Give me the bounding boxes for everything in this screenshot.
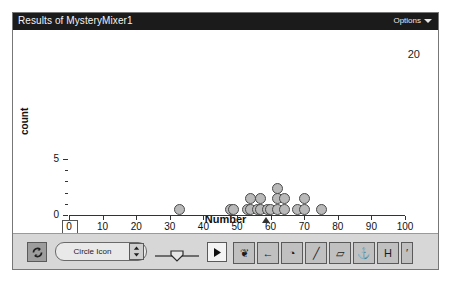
x-tick [371,216,372,220]
more-tools-icon: ′ [406,248,408,259]
stamp-tool-icon: ◔ [289,248,296,259]
y-minor-tick [65,204,68,205]
x-tick [136,216,137,220]
window-title-bar: Results of MysteryMixer1 Options [13,13,438,30]
options-button[interactable]: Options [393,16,421,25]
x-tick-label: 10 [90,221,116,232]
x-tick [103,216,104,220]
refresh-icon[interactable] [27,242,47,262]
eraser-tool[interactable]: ▱ [329,242,351,264]
window-title: Results of MysteryMixer1 [18,15,133,26]
point-count-badge: 20 [408,48,420,60]
x-tick [405,216,406,220]
y-minor-tick [65,181,68,182]
icon-select-dropdown[interactable]: Circle Icon [55,242,147,261]
hand-tool[interactable]: ❦ [233,242,255,264]
mean-marker-icon[interactable] [262,217,270,223]
x-tick [338,216,339,220]
arrow-cursor-icon[interactable] [207,242,227,262]
x-tick [271,216,272,220]
chevron-down-icon[interactable] [424,19,432,23]
x-tick [203,216,204,220]
x-tick-label: 40 [190,221,216,232]
x-tick [170,216,171,220]
size-slider[interactable] [155,248,199,255]
data-point-dot[interactable] [272,183,283,194]
stamp-tool[interactable]: ◔ [281,242,303,264]
hand-tool-icon: ❦ [240,248,249,259]
y-minor-tick [65,193,68,194]
x-tick-label: 30 [157,221,183,232]
tool-button-group: ❦←◔╱▱⚓H′ [233,242,413,264]
data-point-dot[interactable] [255,193,266,204]
icon-select-value: Circle Icon [56,247,129,256]
data-point-dot[interactable] [299,193,310,204]
x-tick [304,216,305,220]
y-minor-tick [65,170,68,171]
eraser-tool-icon: ▱ [336,248,344,259]
bottom-toolbar: Circle Icon ❦←◔╱▱⚓H′ [13,233,438,269]
x-tick [237,216,238,220]
brush-tool[interactable]: ⚓ [353,242,375,264]
y-tick-label: 0 [43,209,59,220]
brush-tool-icon: ⚓ [357,248,371,259]
x-tick-label: 70 [291,221,317,232]
pencil-tool-icon: ╱ [313,248,320,259]
y-tick [63,159,68,160]
pencil-tool[interactable]: ╱ [305,242,327,264]
arrow-left-tool[interactable]: ← [257,242,279,264]
more-tools[interactable]: ′ [401,242,413,264]
y-tick [63,215,68,216]
y-tick-label: 5 [43,153,59,164]
x-tick-label: 80 [325,221,351,232]
data-point-dot[interactable] [299,204,310,215]
x-tick-label: 20 [123,221,149,232]
x-tick-label: 100 [392,221,418,232]
data-point-dot[interactable] [279,204,290,215]
data-point-dot[interactable] [279,193,290,204]
x-tick-label: 50 [224,221,250,232]
results-window: Results of MysteryMixer1 Options 20 coun… [12,12,439,270]
y-axis-label: count [19,108,30,135]
stepper-updown-icon[interactable] [129,243,144,260]
x-tick-label: 90 [358,221,384,232]
arrow-left-tool-icon: ← [263,248,274,259]
plot-area[interactable]: 20 count Number 010203040506070809010005 [13,30,438,235]
data-point-dot[interactable] [316,204,327,215]
text-tool[interactable]: H [377,242,399,264]
shield-handle-icon [171,251,183,261]
text-tool-icon: H [384,248,392,259]
